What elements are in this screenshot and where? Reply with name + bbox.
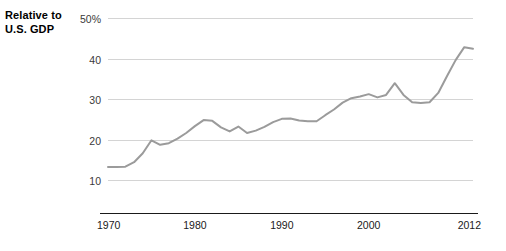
x-tick-label-1970: 1970 — [97, 219, 121, 231]
y-tick-label-50: 50% — [80, 13, 101, 25]
x-tick-label-2012: 2012 — [458, 219, 482, 231]
data-line-series-0 — [108, 47, 473, 167]
line-chart-plot: 50%40302010 19701980199020002012 — [0, 0, 506, 251]
y-tick-label-10: 10 — [89, 175, 101, 187]
x-tick-label-1980: 1980 — [183, 219, 207, 231]
gridlines — [108, 19, 473, 181]
x-tick-label-1990: 1990 — [270, 219, 294, 231]
x-axis-tick-labels: 19701980199020002012 — [97, 219, 481, 231]
y-tick-label-30: 30 — [89, 94, 101, 106]
data-series — [108, 47, 473, 167]
y-tick-label-20: 20 — [89, 135, 101, 147]
x-tick-label-2000: 2000 — [357, 219, 381, 231]
y-tick-label-40: 40 — [89, 54, 101, 66]
chart-container: Relative to U.S. GDP 50%40302010 1970198… — [0, 0, 506, 251]
y-axis-tick-labels: 50%40302010 — [80, 13, 101, 187]
